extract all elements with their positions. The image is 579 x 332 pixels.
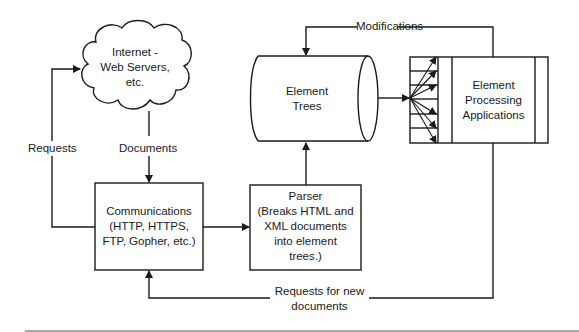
parser-label-line: (Breaks HTML and bbox=[250, 204, 361, 219]
communications-label-line: FTP, Gopher, etc.) bbox=[95, 234, 203, 249]
requests-new-label: Requests for new documents bbox=[270, 284, 369, 314]
parser-label-line: trees.) bbox=[250, 249, 361, 264]
requests-label: Requests bbox=[26, 141, 79, 156]
processing-label-line: Processing bbox=[452, 93, 535, 108]
parser-label-line: XML documents bbox=[250, 219, 361, 234]
communications-label: Communications (HTTP, HTTPS, FTP, Gopher… bbox=[95, 204, 203, 249]
element-trees-label: Element Trees bbox=[262, 84, 352, 114]
parser-label-line: into element bbox=[250, 234, 361, 249]
internet-label-line: etc. bbox=[90, 75, 180, 90]
documents-label: Documents bbox=[117, 141, 179, 156]
processing-label-line: Applications bbox=[452, 108, 535, 123]
parser-label-line: Parser bbox=[250, 189, 361, 204]
processing-label: Element Processing Applications bbox=[452, 78, 535, 123]
diagram-canvas bbox=[0, 0, 579, 332]
parser-label: Parser (Breaks HTML and XML documents in… bbox=[250, 189, 361, 264]
communications-label-line: (HTTP, HTTPS, bbox=[95, 219, 203, 234]
element-trees-label-line: Element bbox=[262, 84, 352, 99]
internet-label-line: Internet - bbox=[90, 45, 180, 60]
element-trees-label-line: Trees bbox=[262, 99, 352, 114]
internet-label-line: Web Servers, bbox=[90, 60, 180, 75]
processing-label-line: Element bbox=[452, 78, 535, 93]
communications-label-line: Communications bbox=[95, 204, 203, 219]
requests-new-label-line: documents bbox=[270, 299, 369, 314]
modifications-label: Modifications bbox=[356, 19, 397, 34]
requests-new-label-line: Requests for new bbox=[270, 284, 369, 299]
internet-label: Internet - Web Servers, etc. bbox=[90, 45, 180, 90]
